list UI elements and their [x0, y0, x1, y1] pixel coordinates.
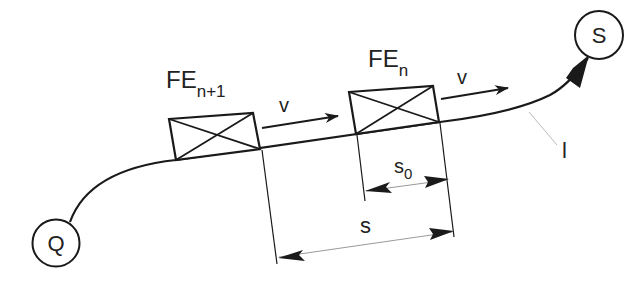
extension-line-leader-rear — [357, 135, 365, 201]
conveyor-unit-leader — [349, 86, 439, 134]
dimension-s0-label: s0 — [394, 155, 412, 182]
conveyor-unit-follower — [169, 113, 260, 160]
track-arrowhead-icon — [566, 55, 589, 88]
sink-node: S — [575, 11, 623, 59]
velocity-arrow-leader — [441, 88, 508, 99]
follower-unit-label: FEn+1 — [166, 66, 226, 101]
extension-line-follower-front — [262, 150, 277, 264]
source-node: Q — [33, 220, 80, 267]
track-label-leader-line — [529, 112, 557, 145]
dimension-s-label: s — [360, 213, 371, 238]
source-node-label: Q — [47, 231, 64, 256]
sink-node-label: S — [592, 23, 607, 48]
velocity-label-leader: v — [457, 66, 467, 88]
track-path — [70, 58, 588, 222]
velocity-label-follower: v — [279, 94, 289, 116]
velocity-arrow-follower — [262, 116, 338, 128]
conveyor-diagram: Q S FEn+1 FEn v v s0 — [0, 0, 641, 286]
track-label: l — [562, 138, 567, 163]
leader-unit-label: FEn — [368, 45, 408, 80]
